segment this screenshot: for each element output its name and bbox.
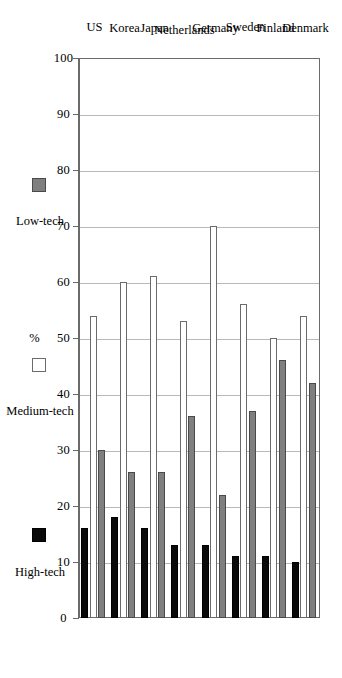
category-label-sweden: Sweden [239,0,252,56]
category-label-us: US [88,0,101,56]
bar-sweden-high-tech[interactable] [232,556,239,618]
bar-us-low-tech[interactable] [98,450,105,618]
bar-sweden-medium-tech[interactable] [240,304,247,618]
category-label-germany: Germany [209,0,222,56]
bar-group [109,58,139,618]
legend-swatch-high [32,528,46,542]
legend-label: Medium-tech [32,377,48,444]
category-label-netherlands: Netherlands [178,0,191,56]
bar-germany-medium-tech[interactable] [210,226,217,618]
bar-korea-high-tech[interactable] [111,517,118,618]
bar-germany-low-tech[interactable] [219,495,226,618]
bar-germany-high-tech[interactable] [202,545,209,618]
legend-label: High-tech [32,547,48,597]
legend-swatch-medium [32,358,46,372]
bar-group [169,58,199,618]
category-label-denmark: Denmark [299,0,312,56]
bar-group [230,58,260,618]
bar-netherlands-medium-tech[interactable] [180,321,187,618]
bar-finland-high-tech[interactable] [262,556,269,618]
category-label-text: Denmark [282,21,329,34]
chart-legend: High-techMedium-techLow-tech [4,58,50,618]
bar-finland-low-tech[interactable] [279,360,286,618]
category-label-text: US [87,21,103,34]
bar-japan-low-tech[interactable] [158,472,165,618]
bar-group [290,58,320,618]
bar-netherlands-high-tech[interactable] [172,545,179,618]
bar-denmark-low-tech[interactable] [309,383,316,618]
bar-korea-medium-tech[interactable] [120,282,127,618]
legend-swatch-low [32,178,46,192]
bar-denmark-medium-tech[interactable] [301,316,308,618]
bar-group [139,58,169,618]
bar-finland-medium-tech[interactable] [270,338,277,618]
bar-korea-low-tech[interactable] [128,472,135,618]
legend-label-text: High-tech [15,564,65,580]
legend-label: Low-tech [32,197,48,245]
bar-group [79,58,109,618]
bar-group [200,58,230,618]
bar-sweden-low-tech[interactable] [249,411,256,618]
legend-label-text: Low-tech [16,213,64,229]
bar-group [260,58,290,618]
category-label-finland: Finland [269,0,282,56]
bar-denmark-high-tech[interactable] [292,562,299,618]
bar-japan-medium-tech[interactable] [150,276,157,618]
bar-netherlands-low-tech[interactable] [189,416,196,618]
chart-canvas: 1009080706050403020100 USKoreaJapanNethe… [0,0,342,678]
bar-japan-high-tech[interactable] [141,528,148,618]
bar-us-high-tech[interactable] [81,528,88,618]
legend-label-text: Medium-tech [6,403,73,419]
bar-us-medium-tech[interactable] [90,316,97,618]
category-label-korea: Korea [118,0,131,56]
category-label-text: Korea [109,21,140,34]
